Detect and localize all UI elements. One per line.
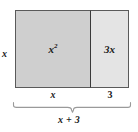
area-model-diagram: x x2 3x x 3 x + 3 — [0, 0, 138, 132]
area-cell-three-x: 3x — [91, 10, 129, 88]
area-cell-x-squared-label: x2 — [16, 44, 90, 55]
area-cell-x-squared-exponent: 2 — [54, 42, 58, 50]
width-brace-icon — [12, 101, 132, 114]
segment-width-label-3: 3 — [91, 90, 129, 100]
total-width-label: x + 3 — [0, 115, 138, 125]
area-cell-x-squared: x2 — [15, 10, 91, 88]
height-label: x — [2, 49, 7, 59]
area-cell-three-x-label: 3x — [91, 44, 128, 55]
rectangle-group: x2 3x — [15, 10, 129, 88]
segment-width-label-x: x — [15, 90, 91, 100]
